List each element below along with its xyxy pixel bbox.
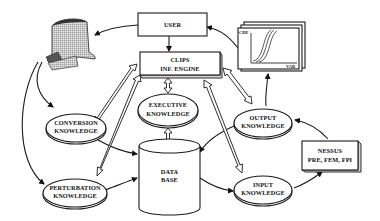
cdf-xlabel: VAR — [286, 64, 296, 69]
conversion-label-line1: CONVERSION — [54, 119, 98, 126]
nessus-label-line2: PRE, FEM, FPI — [308, 156, 353, 163]
executive-label-line2: KNOWLEDGE — [146, 110, 190, 117]
database-label-line2: BASE — [161, 176, 178, 183]
perturbation-label-line2: KNOWLEDGE — [53, 192, 97, 199]
output-label-line1: OUTPUT — [250, 114, 278, 121]
arrow-output-to-cdf — [266, 74, 268, 106]
arrow-conversion-to-database — [98, 140, 137, 154]
nessus-node: NESSUS PRE, FEM, FPI — [302, 141, 361, 172]
double-arrow-clips-output — [223, 68, 252, 104]
conversion-label-line2: KNOWLEDGE — [54, 127, 98, 134]
input-knowledge-node: INPUT KNOWLEDGE — [234, 176, 292, 206]
perturbation-label-line1: PERTURBATION — [49, 184, 101, 191]
output-knowledge-node: OUTPUT KNOWLEDGE — [234, 109, 292, 139]
database-node: DATA BASE — [139, 139, 200, 215]
expert-system-diagram: USER CLIPS INF. ENGINE CDF VAR EXECUTIVE… — [0, 0, 380, 221]
output-label-line2: KNOWLEDGE — [241, 122, 285, 129]
user-node: USER — [138, 13, 207, 36]
executive-label-line1: EXECUTIVE — [149, 101, 187, 108]
arrow-cdf-to-user — [207, 27, 238, 48]
clips-label-line2: INF. ENGINE — [160, 65, 199, 72]
arrow-blade-to-conversion — [37, 62, 53, 107]
nessus-label-line1: NESSUS — [318, 147, 343, 154]
input-label-line2: KNOWLEDGE — [241, 189, 285, 196]
conversion-knowledge-node: CONVERSION KNOWLEDGE — [46, 114, 106, 144]
arrow-database-to-input — [200, 178, 233, 191]
perturbation-knowledge-node: PERTURBATION KNOWLEDGE — [43, 179, 107, 209]
double-arrow-clips-executive — [164, 78, 172, 93]
clips-inference-engine-node: CLIPS INF. ENGINE — [140, 52, 222, 78]
input-label-line1: INPUT — [253, 181, 274, 188]
arrow-perturbation-to-database — [105, 178, 137, 190]
arrow-user-to-blade — [95, 25, 138, 35]
cdf-plot-node: CDF VAR — [238, 22, 305, 71]
user-label: USER — [164, 21, 182, 28]
arrow-nessus-to-output — [295, 120, 328, 139]
arrow-input-to-nessus — [294, 172, 322, 188]
executive-knowledge-node: EXECUTIVE KNOWLEDGE — [138, 94, 198, 128]
clips-label-line1: CLIPS — [170, 56, 189, 63]
cdf-ylabel: CDF — [239, 30, 249, 35]
database-label-line1: DATA — [161, 168, 179, 175]
arrow-blade-to-perturbation — [22, 62, 44, 184]
turbine-blade-image — [46, 19, 95, 70]
